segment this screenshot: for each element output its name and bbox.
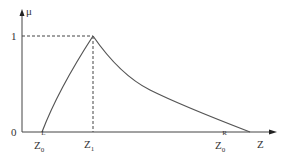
x-axis-label: Z (257, 139, 264, 150)
x-tick-z0r: Z0R (215, 139, 230, 154)
x-tick-z0l: Z0L (34, 139, 49, 154)
x-tick-z1: Z1 (84, 139, 94, 153)
y-tick-zero: 0 (11, 127, 17, 138)
x-axis-arrow (269, 130, 277, 135)
falling-edge (93, 36, 250, 132)
y-axis-label: μ (26, 6, 32, 17)
y-axis-arrow (20, 9, 25, 16)
rising-edge (42, 36, 93, 132)
y-tick-one: 1 (11, 31, 17, 42)
